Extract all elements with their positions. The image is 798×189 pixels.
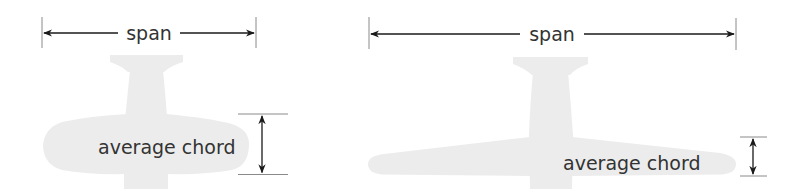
right-span-label: span <box>529 23 575 45</box>
left-airplane-silhouette <box>43 55 249 189</box>
aspect-ratio-diagram: span average chord span <box>0 0 798 189</box>
left-span-label: span <box>126 22 172 44</box>
left-tail-stabilizer <box>110 55 183 72</box>
right-span-dimension: span <box>369 17 736 50</box>
right-chord-label: average chord <box>563 152 700 174</box>
right-chord-dimension <box>740 137 767 176</box>
left-span-dimension: span <box>42 17 256 48</box>
right-airplane-diagram: span average chord <box>368 17 767 189</box>
left-airplane-diagram: span average chord <box>42 17 288 189</box>
left-chord-label: average chord <box>98 136 235 158</box>
